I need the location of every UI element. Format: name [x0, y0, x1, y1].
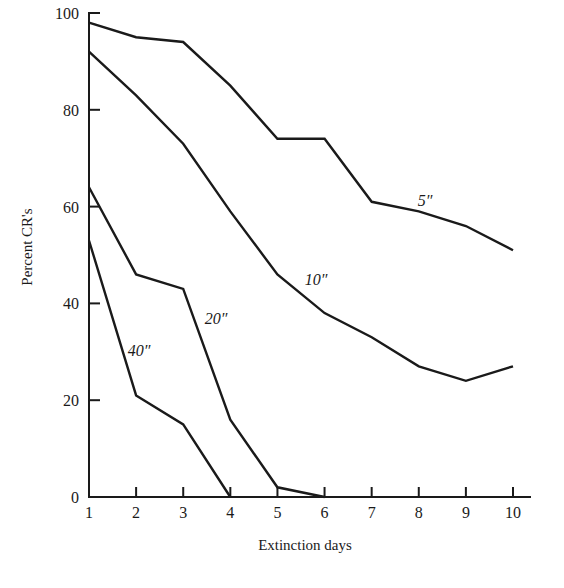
series-label: 20″ [205, 310, 228, 327]
y-tick-label: 20 [63, 392, 79, 409]
y-tick-label: 80 [63, 102, 79, 119]
x-tick-label: 3 [179, 504, 187, 521]
y-tick-label: 40 [63, 295, 79, 312]
series-line [89, 52, 513, 381]
x-tick-label: 7 [368, 504, 376, 521]
series-line [89, 23, 513, 251]
line-chart: 020406080100 12345678910 5″10″20″40″ Ext… [0, 0, 564, 588]
x-axis-title: Extinction days [258, 537, 352, 553]
x-tick-label: 8 [415, 504, 423, 521]
series-label: 40″ [128, 342, 151, 359]
series-label: 5″ [418, 192, 433, 209]
x-tick-label: 2 [132, 504, 140, 521]
x-tick-label: 9 [462, 504, 470, 521]
x-tick-label: 5 [273, 504, 281, 521]
x-tick-label: 4 [226, 504, 234, 521]
y-tick-label: 0 [71, 489, 79, 506]
axes: 020406080100 12345678910 [55, 5, 531, 521]
series-line [89, 241, 230, 498]
series-line [89, 187, 325, 497]
x-tick-label: 1 [85, 504, 93, 521]
y-tick-label: 100 [55, 5, 79, 22]
x-tick-label: 10 [505, 504, 521, 521]
y-tick-label: 60 [63, 199, 79, 216]
y-axis-title: Percent CR's [19, 208, 35, 285]
series-lines [89, 23, 513, 497]
x-tick-label: 6 [321, 504, 329, 521]
series-label: 10″ [305, 271, 328, 288]
